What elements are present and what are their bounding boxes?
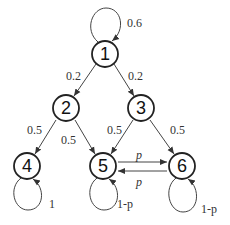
- edge-label-4-4: 1: [49, 197, 55, 211]
- edge-label-5-6: p: [135, 148, 142, 162]
- edge-5-5: [90, 178, 118, 210]
- node-1: 1: [92, 41, 118, 67]
- node-label-6: 6: [177, 156, 187, 176]
- node-4: 4: [14, 153, 40, 179]
- node-label-3: 3: [136, 98, 146, 118]
- edge-label-2-4: 0.5: [27, 123, 42, 137]
- edge-label-1-3: 0.2: [128, 69, 143, 83]
- markov-chain-diagram: 0.6 0.2 0.2 0.5 0.5 0.5 0.5 p p 1 1-p 1-…: [0, 0, 230, 225]
- node-5: 5: [90, 153, 116, 179]
- node-2: 2: [53, 95, 79, 121]
- node-label-5: 5: [98, 156, 108, 176]
- node-6: 6: [169, 153, 195, 179]
- diagram-canvas: 0.6 0.2 0.2 0.5 0.5 0.5 0.5 p p 1 1-p 1-…: [0, 0, 230, 225]
- edge-label-1-2: 0.2: [66, 69, 81, 83]
- edge-4-4: [14, 178, 42, 210]
- edge-label-1-1: 0.6: [127, 16, 142, 30]
- edge-label-3-6: 0.5: [170, 123, 185, 137]
- edge-label-6-5: p: [135, 175, 142, 189]
- node-label-2: 2: [61, 98, 71, 118]
- node-label-4: 4: [22, 156, 32, 176]
- edge-label-3-5: 0.5: [107, 123, 122, 137]
- node-label-1: 1: [100, 44, 110, 64]
- edge-label-2-5: 0.5: [61, 133, 76, 147]
- edge-1-1: [91, 8, 121, 42]
- node-3: 3: [128, 95, 154, 121]
- edge-6-6: [169, 178, 197, 212]
- edge-label-6-6: 1-p: [201, 202, 217, 216]
- edge-label-5-5: 1-p: [117, 197, 133, 211]
- edge-2-5: [75, 120, 95, 154]
